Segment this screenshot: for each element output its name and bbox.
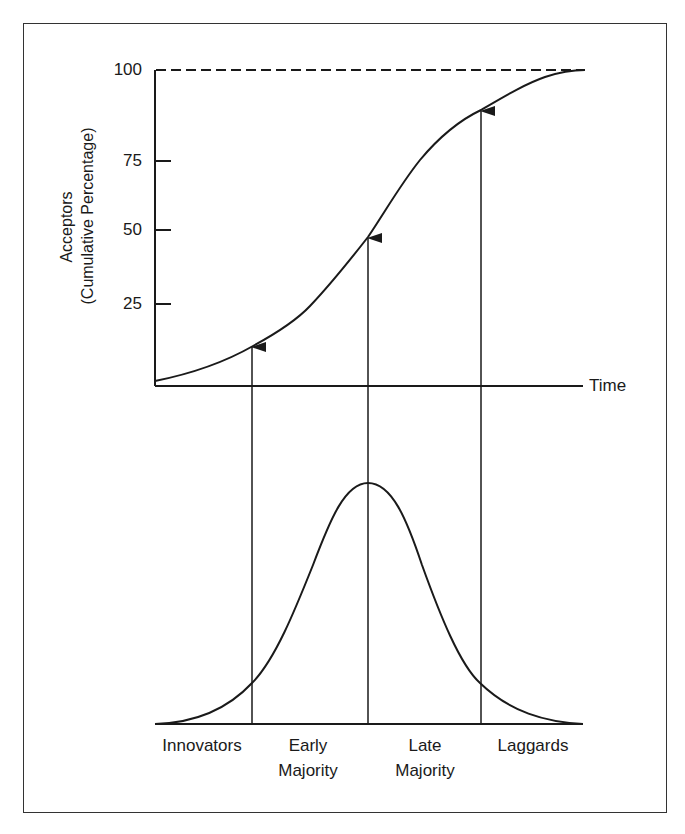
category-early-majority: Early Majority <box>258 733 358 783</box>
category-innovators: Innovators <box>150 733 254 758</box>
cumulative-s-curve <box>155 70 585 381</box>
category-laggards-label: Laggards <box>498 736 569 755</box>
category-laggards: Laggards <box>488 733 578 758</box>
category-late-majority: Late Majority <box>375 733 475 783</box>
x-axis-title: Time <box>589 377 626 395</box>
category-late-line2: Majority <box>375 758 475 783</box>
category-early-line2: Majority <box>258 758 358 783</box>
y-axis-title-line1: Acceptors <box>57 177 77 277</box>
bell-curve <box>155 483 583 724</box>
category-early-line1: Early <box>258 733 358 758</box>
y-tick-label-100: 100 <box>82 61 142 79</box>
y-axis-title-line2: (Cumulative Percentage) <box>78 118 98 314</box>
category-late-line1: Late <box>375 733 475 758</box>
diffusion-diagram <box>0 0 685 834</box>
category-innovators-label: Innovators <box>162 736 241 755</box>
